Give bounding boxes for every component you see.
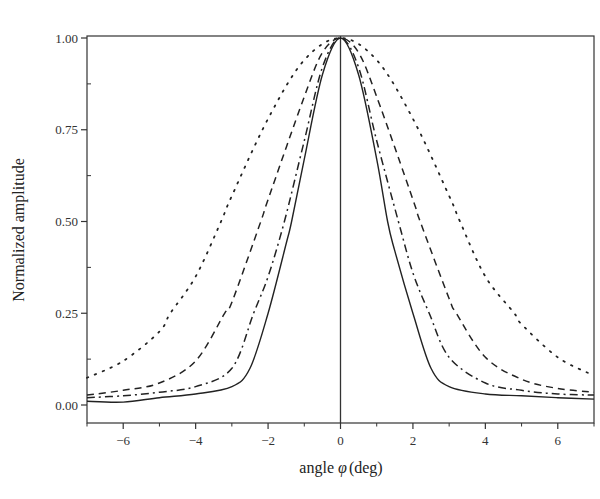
y-tick-label: 0.25 bbox=[55, 306, 78, 321]
x-axis-title: angle φ(deg) bbox=[299, 459, 382, 477]
x-tick-label: 0 bbox=[337, 433, 344, 448]
x-axis-title-suffix: (deg) bbox=[349, 459, 383, 477]
x-tick-label: −6 bbox=[116, 433, 130, 448]
phi-symbol: φ bbox=[338, 459, 347, 477]
y-axis: 0.000.250.500.751.00 bbox=[55, 31, 91, 413]
x-axis: −6−4−20246 bbox=[87, 423, 594, 448]
x-tick-label: −4 bbox=[189, 433, 203, 448]
y-tick-label: 1.00 bbox=[55, 31, 78, 46]
y-tick-label: 0.00 bbox=[55, 398, 78, 413]
y-axis-title: Normalized amplitude bbox=[10, 158, 28, 302]
x-tick-label: 6 bbox=[555, 433, 562, 448]
chart: 0.000.250.500.751.00 −6−4−20246 Normaliz… bbox=[0, 0, 600, 499]
y-tick-label: 0.75 bbox=[55, 122, 78, 137]
x-axis-title-prefix: angle bbox=[299, 459, 338, 477]
x-tick-label: 2 bbox=[410, 433, 417, 448]
plot-frame bbox=[87, 36, 594, 423]
x-tick-label: −2 bbox=[261, 433, 275, 448]
y-tick-label: 0.50 bbox=[55, 214, 78, 229]
x-tick-label: 4 bbox=[482, 433, 489, 448]
